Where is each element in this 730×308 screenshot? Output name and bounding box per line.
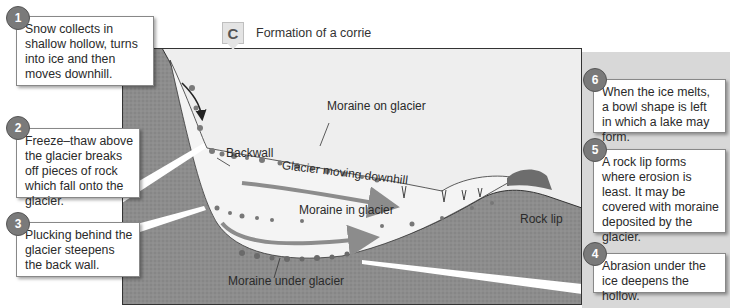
callout-1-text: Snow collects in shallow hollow, turns i… xyxy=(25,22,138,81)
callout-3: Plucking behind the glacier steepens the… xyxy=(16,222,140,277)
callout-5-number: 5 xyxy=(583,138,607,162)
callout-4: Abrasion under the ice deepens the hollo… xyxy=(593,253,726,293)
callout-3-number: 3 xyxy=(6,212,30,236)
callout-3-text: Plucking behind the glacier steepens the… xyxy=(25,228,132,272)
callout-1-number: 1 xyxy=(6,6,30,30)
callout-6: When the ice melts, a bowl shape is left… xyxy=(593,79,726,133)
label-moraine-under-glacier: Moraine under glacier xyxy=(228,274,344,288)
section-badge: C xyxy=(222,22,244,44)
callout-2: Freeze–thaw above the glacier breaks off… xyxy=(16,128,140,198)
diagram-title: Formation of a corrie xyxy=(256,26,371,40)
callout-1: Snow collects in shallow hollow, turns i… xyxy=(16,16,154,86)
callout-4-number: 4 xyxy=(583,242,607,266)
diagram-header: C Formation of a corrie xyxy=(222,18,371,48)
callout-2-text: Freeze–thaw above the glacier breaks off… xyxy=(25,134,133,208)
callout-5: A rock lip forms where erosion is least.… xyxy=(593,149,726,233)
label-moraine-in-glacier: Moraine in glacier xyxy=(299,203,394,217)
label-moraine-on-glacier: Moraine on glacier xyxy=(327,99,426,113)
label-rock-lip: Rock lip xyxy=(520,212,563,226)
callout-6-number: 6 xyxy=(583,68,607,92)
callout-5-text: A rock lip forms where erosion is least.… xyxy=(602,155,719,244)
callout-2-number: 2 xyxy=(6,116,30,140)
label-backwall: Backwall xyxy=(226,146,273,160)
